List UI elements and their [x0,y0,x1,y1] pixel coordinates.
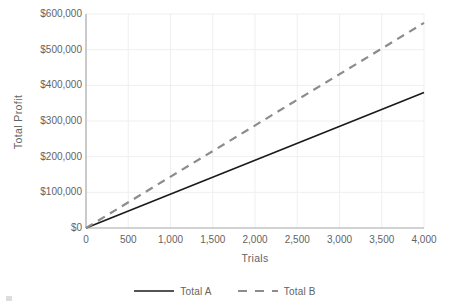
legend-swatch-dashed-line-icon [238,286,278,296]
x-tick-label: 4,000 [394,234,450,245]
legend-item-total-b: Total B [238,286,316,297]
x-axis-title: Trials [86,252,424,264]
corner-artifact [6,296,12,301]
line-chart: Total Profit $0$100,000$200,000$300,000$… [0,0,450,307]
legend-swatch-solid-line-icon [134,286,174,296]
legend-label-total-b: Total B [284,286,316,297]
legend-item-total-a: Total A [134,286,211,297]
chart-legend: Total A Total B [0,281,450,301]
legend-label-total-a: Total A [180,286,211,297]
